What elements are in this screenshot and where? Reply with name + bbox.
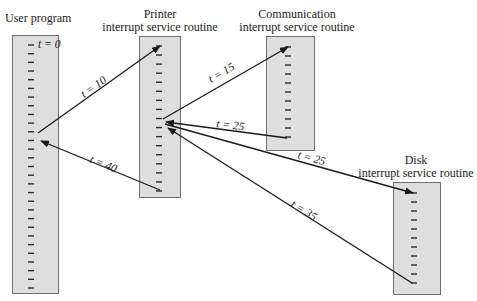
label-t15: t = 15 xyxy=(206,60,237,85)
label-t35: t = 35 xyxy=(289,198,319,223)
user-program-title: User program xyxy=(5,11,72,25)
disk-isr-box xyxy=(394,183,441,295)
printer-isr-box xyxy=(140,37,181,198)
interrupt-timeline-diagram: User program Printer interrupt service r… xyxy=(0,0,477,301)
communication-title-line2: interrupt service routine xyxy=(239,20,354,34)
communication-isr-box xyxy=(267,37,315,151)
label-t25-comm: t = 25 xyxy=(216,117,246,132)
disk-title-line1: Disk xyxy=(405,153,428,167)
start-time-label: t = 0 xyxy=(38,38,61,50)
label-t40: t = 40 xyxy=(88,153,119,175)
user-program-box xyxy=(13,36,59,294)
printer-title-line1: Printer xyxy=(144,7,177,21)
communication-title-line1: Communication xyxy=(258,7,335,21)
printer-title-line2: interrupt service routine xyxy=(102,20,217,34)
disk-title-line2: interrupt service routine xyxy=(358,166,473,180)
